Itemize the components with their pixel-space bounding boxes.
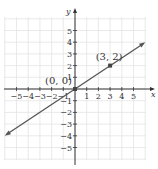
y-tick-label: −2 <box>60 108 72 117</box>
x-tick-label: 4 <box>119 92 124 101</box>
x-tick-label: 1 <box>84 92 89 101</box>
y-tick-label: −3 <box>60 120 72 129</box>
y-tick-label: 4 <box>67 38 72 47</box>
x-tick-label: 5 <box>131 92 136 101</box>
x-tick-label: −2 <box>46 92 58 101</box>
x-tick-label: −3 <box>34 92 46 101</box>
point-label: (3, 2) <box>96 51 123 62</box>
x-tick-label: 2 <box>96 92 101 101</box>
point-label: (0, 0) <box>45 75 72 86</box>
line-arrow-icon <box>139 42 145 47</box>
point-marker <box>73 87 77 91</box>
y-tick-label: 5 <box>67 27 72 36</box>
x-axis-label: x <box>151 90 156 99</box>
y-tick-label: 3 <box>67 50 72 59</box>
line-arrow-icon <box>5 131 11 136</box>
plotted-points: (0, 0)(3, 2) <box>45 51 123 91</box>
y-tick-label: −5 <box>60 144 72 153</box>
coordinate-plane: −5−4−3−2−112345−5−4−3−2−112345 (0, 0)(3,… <box>0 0 158 169</box>
y-axis-arrow-icon <box>73 8 77 13</box>
y-tick-label: 2 <box>67 62 72 71</box>
y-tick-label: −4 <box>60 132 72 141</box>
point-marker <box>108 64 112 68</box>
y-axis-label: y <box>65 7 71 16</box>
x-tick-label: −5 <box>11 92 23 101</box>
x-tick-label: 3 <box>108 92 113 101</box>
x-tick-label: −4 <box>22 92 34 101</box>
